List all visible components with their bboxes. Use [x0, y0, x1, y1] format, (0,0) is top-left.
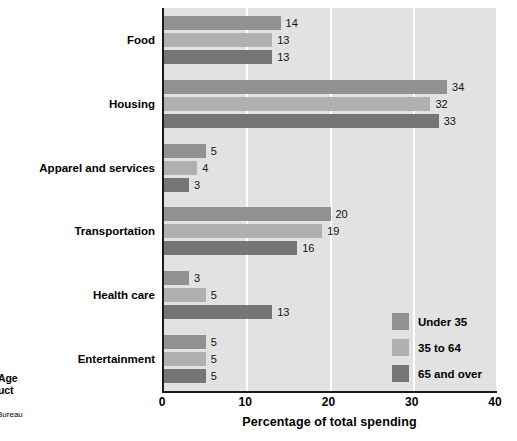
bar — [164, 352, 206, 366]
bar-value-label: 5 — [211, 145, 217, 156]
bar-value-label: 16 — [302, 243, 314, 254]
bar-value-label: 13 — [277, 307, 289, 318]
bar — [164, 97, 430, 111]
bar-value-label: 5 — [211, 337, 217, 348]
bar — [164, 178, 189, 192]
legend-item: 35 to 64 — [392, 337, 504, 358]
bar-value-label: 5 — [211, 371, 217, 382]
bar-row: 13 — [164, 50, 497, 64]
bar — [164, 335, 206, 349]
bar-row: 32 — [164, 97, 497, 111]
bar-row: 33 — [164, 114, 497, 128]
bar-row: 20 — [164, 207, 497, 221]
x-tick-30: 30 — [405, 395, 418, 409]
category-label: Transportation — [74, 225, 155, 237]
x-axis-title: Percentage of total spending — [162, 415, 497, 429]
bar — [164, 114, 439, 128]
bar-row: 5 — [164, 144, 497, 158]
bar-group: 201916 — [164, 200, 497, 264]
category-label: Food — [127, 34, 155, 46]
bar — [164, 16, 281, 30]
category-label: Health care — [93, 289, 155, 301]
bar-value-label: 3 — [194, 273, 200, 284]
bar — [164, 288, 206, 302]
bar-value-label: 5 — [211, 354, 217, 365]
legend-label: Under 35 — [418, 316, 467, 328]
bar-row: 16 — [164, 241, 497, 255]
x-tick-0: 0 — [159, 395, 166, 409]
bar-row: 14 — [164, 16, 497, 30]
bar — [164, 305, 272, 319]
bar-row: 4 — [164, 161, 497, 175]
bar-value-label: 13 — [277, 51, 289, 62]
bar-value-label: 13 — [277, 34, 289, 45]
source-text: Bureau — [0, 410, 52, 420]
bar-value-label: 32 — [435, 98, 447, 109]
legend-label: 35 to 64 — [418, 342, 461, 354]
bar — [164, 207, 331, 221]
bar-value-label: 33 — [444, 115, 456, 126]
bar-group: 543 — [164, 136, 497, 200]
x-tick-10: 10 — [239, 395, 252, 409]
bar — [164, 161, 197, 175]
chart-legend: Under 3535 to 6465 and over — [392, 311, 504, 389]
legend-swatch — [392, 365, 409, 382]
bar-row: 5 — [164, 288, 497, 302]
bar-row: 3 — [164, 271, 497, 285]
bar-value-label: 4 — [202, 162, 208, 173]
legend-item: Under 35 — [392, 311, 504, 332]
bar — [164, 33, 272, 47]
category-axis-labels: FoodHousingApparel and servicesTransport… — [0, 8, 155, 393]
bar — [164, 80, 447, 94]
bar-group: 141313 — [164, 8, 497, 72]
bar-row: 13 — [164, 33, 497, 47]
bar-value-label: 34 — [452, 81, 464, 92]
category-label: Housing — [109, 98, 155, 110]
bar — [164, 50, 272, 64]
category-label: Entertainment — [78, 353, 155, 365]
bar-row: 19 — [164, 224, 497, 238]
bar-group: 343233 — [164, 72, 497, 136]
x-tick-40: 40 — [488, 395, 501, 409]
bar-value-label: 14 — [286, 17, 298, 28]
bar — [164, 224, 322, 238]
bar-value-label: 20 — [336, 209, 348, 220]
category-label: Apparel and services — [39, 162, 155, 174]
bar — [164, 271, 189, 285]
bar-value-label: 3 — [194, 179, 200, 190]
legend-item: 65 and over — [392, 363, 504, 384]
bar-row: 34 — [164, 80, 497, 94]
bar-value-label: 5 — [211, 290, 217, 301]
legend-label: 65 and over — [418, 368, 482, 380]
bar-row: 3 — [164, 178, 497, 192]
bar — [164, 144, 206, 158]
bar-value-label: 19 — [327, 226, 339, 237]
bar — [164, 241, 297, 255]
x-tick-20: 20 — [322, 395, 335, 409]
bar — [164, 369, 206, 383]
x-axis-ticks: 010203040 — [162, 395, 497, 411]
margin-source: Bureau — [0, 410, 52, 420]
legend-swatch — [392, 313, 409, 330]
legend-swatch — [392, 339, 409, 356]
